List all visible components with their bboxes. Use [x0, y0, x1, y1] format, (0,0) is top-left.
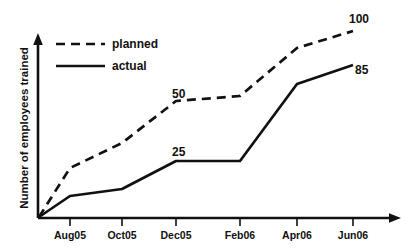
x-tick-label-oct05: Oct05 [107, 230, 136, 241]
y-axis-arrowhead [33, 33, 43, 45]
data-label-planned-jun06: 100 [349, 13, 369, 25]
data-label-actual-dec05: 25 [172, 146, 185, 158]
series-line-planned [39, 31, 353, 217]
legend-label-planned: planned [112, 38, 158, 50]
x-tick-label-aug05: Aug05 [54, 230, 86, 241]
line-chart: Number of employees trained planned actu… [0, 0, 410, 249]
x-axis-arrowhead [389, 213, 401, 223]
y-axis-title: Number of employees trained [18, 43, 30, 213]
x-tick-label-feb06: Feb06 [225, 230, 255, 241]
chart-plot-area [0, 0, 410, 249]
legend-label-actual: actual [112, 60, 147, 72]
data-label-planned-dec05: 50 [172, 88, 185, 100]
x-tick-label-apr06: Apr06 [282, 230, 312, 241]
x-tick-label-jun06: Jun06 [338, 230, 368, 241]
data-label-actual-jun06: 85 [355, 64, 368, 76]
series-line-actual [39, 65, 353, 217]
x-tick-label-dec05: Dec05 [161, 230, 192, 241]
